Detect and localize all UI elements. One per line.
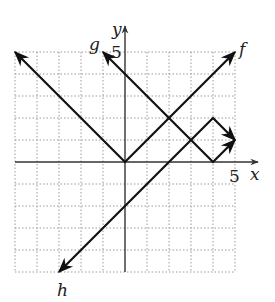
y-tick-label-5: 5 [111, 42, 122, 62]
y-axis-label: y [111, 19, 122, 39]
curve-g [103, 52, 235, 162]
x-axis-label: x [250, 164, 260, 184]
x-tick-label-5: 5 [229, 166, 240, 186]
coordinate-plot: y 5 x 5 g f h [0, 0, 275, 302]
curve-label-f: f [237, 39, 248, 59]
curve-label-g: g [89, 34, 100, 54]
curve-label-h: h [57, 280, 68, 300]
